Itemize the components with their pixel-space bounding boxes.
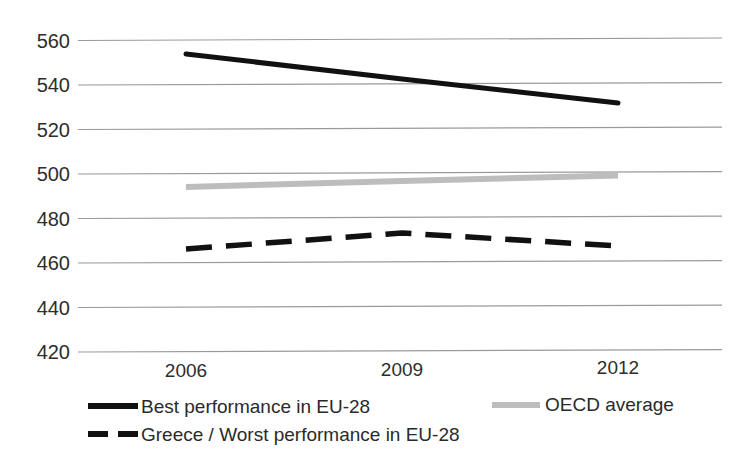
xtick-label-2009: 2009 <box>347 360 457 380</box>
ytick-label-420: 420 <box>12 342 70 362</box>
ytick-label-560: 560 <box>12 31 70 51</box>
gridline-440 <box>78 305 722 307</box>
plot-area: 560 540 520 500 480 460 440 420 2006 200… <box>0 0 756 469</box>
legend-label-greece-worst-performance: Greece / Worst performance in EU-28 <box>141 424 460 446</box>
legend-label-oecd-average: OECD average <box>545 394 674 416</box>
ytick-label-500: 500 <box>12 164 70 184</box>
gridline-540 <box>78 83 722 85</box>
series-line-oecd-average <box>186 176 618 188</box>
ytick-label-480: 480 <box>12 209 70 229</box>
ytick-label-440: 440 <box>12 298 70 318</box>
series-line-greece-worst-performance <box>186 233 618 249</box>
legend-label-best-performance: Best performance in EU-28 <box>141 396 370 418</box>
ytick-label-460: 460 <box>12 253 70 273</box>
series-line-best-performance <box>186 54 618 103</box>
ytick-label-520: 520 <box>12 120 70 140</box>
gridline-480 <box>78 216 722 218</box>
line-chart: 560 540 520 500 480 460 440 420 2006 200… <box>0 0 756 469</box>
gridline-460 <box>78 261 722 263</box>
ytick-label-540: 540 <box>12 75 70 95</box>
gridlines <box>78 38 722 352</box>
xtick-label-2006: 2006 <box>131 361 241 381</box>
gridline-520 <box>78 127 722 129</box>
xtick-label-2012: 2012 <box>563 358 673 378</box>
gridline-560 <box>78 38 722 41</box>
gridline-500 <box>78 172 722 174</box>
gridline-420 <box>78 350 722 352</box>
